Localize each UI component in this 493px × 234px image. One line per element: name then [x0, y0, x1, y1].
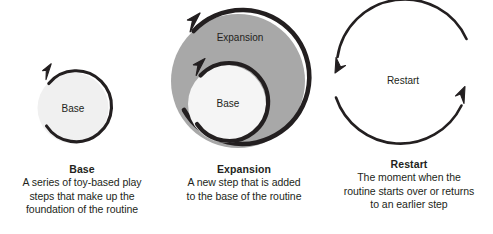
panel-restart: Restart Restart The moment when the rout…	[325, 0, 493, 234]
base-caption-line-2: steps that make up the	[0, 190, 164, 204]
base-diagram-art: Base	[0, 0, 164, 160]
panel-expansion: Expansion Base Expansion A new step that…	[161, 0, 327, 234]
restart-left-arrowhead-icon	[335, 58, 346, 74]
expansion-caption-line-2: to the base of the routine	[161, 190, 327, 204]
base-caption-line-1: A series of toy-based play	[0, 176, 164, 190]
expansion-caption-title: Expansion	[161, 163, 327, 176]
restart-diagram-art: Restart	[325, 0, 493, 160]
expansion-caption: Expansion A new step that is added to th…	[161, 163, 327, 203]
restart-center-label: Restart	[387, 75, 419, 86]
base-arrowhead-icon	[43, 64, 52, 80]
restart-caption-title: Restart	[325, 158, 493, 171]
routine-cycle-diagram: Base Base A series of toy-based play ste…	[0, 0, 493, 234]
restart-caption-desc: The moment when the routine starts over …	[325, 171, 493, 212]
expansion-caption-desc: A new step that is added to the base of …	[161, 176, 327, 203]
base-caption: Base A series of toy-based play steps th…	[0, 163, 164, 217]
restart-top-arc	[338, 0, 467, 57]
restart-bottom-arc	[336, 98, 462, 144]
restart-caption-line-2: routine starts over or returns	[325, 185, 493, 199]
base-caption-title: Base	[0, 163, 164, 176]
restart-caption: Restart The moment when the routine star…	[325, 158, 493, 212]
expansion-circles-svg: Expansion Base	[161, 0, 327, 160]
base-disk-label: Base	[62, 103, 85, 114]
expansion-caption-line-1: A new step that is added	[161, 176, 327, 190]
restart-right-arrowhead-icon	[456, 87, 466, 104]
panel-base: Base Base A series of toy-based play ste…	[0, 0, 164, 234]
restart-caption-line-3: to an earlier step	[325, 198, 493, 212]
base-caption-desc: A series of toy-based play steps that ma…	[0, 176, 164, 217]
base-caption-line-3: foundation of the routine	[0, 203, 164, 217]
expansion-inner-label: Base	[217, 98, 240, 109]
expansion-diagram-art: Expansion Base	[161, 0, 327, 160]
restart-caption-line-1: The moment when the	[325, 171, 493, 185]
expansion-outer-label: Expansion	[217, 32, 264, 43]
restart-arrows-svg: Restart	[325, 0, 493, 160]
base-circle-svg: Base	[0, 0, 164, 160]
